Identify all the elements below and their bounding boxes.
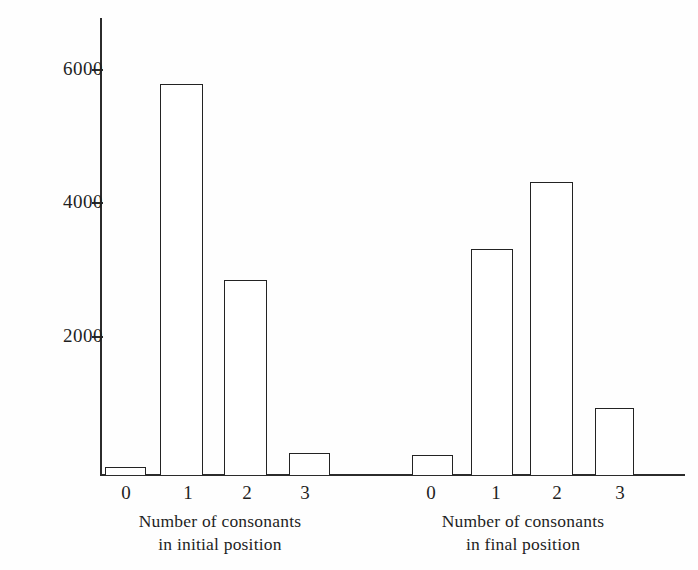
x-tick-label-initial-2: 2 [235, 483, 259, 502]
group-caption-final: Number of consonants in final position [363, 510, 683, 557]
x-tick-label-final-0: 0 [419, 483, 443, 502]
bar-final-0 [412, 455, 453, 475]
y-tick-label: 4000 [39, 192, 103, 211]
group-caption-final-line1: Number of consonants [363, 510, 683, 533]
group-caption-initial-line1: Number of consonants [60, 510, 380, 533]
bar-initial-3 [289, 453, 330, 475]
group-caption-initial-line2: in initial position [60, 533, 380, 556]
bar-initial-2 [224, 280, 267, 475]
bar-final-2 [530, 182, 573, 475]
x-tick-label-initial-3: 3 [293, 483, 317, 502]
bar-final-3 [595, 408, 634, 475]
y-tick-label: 2000 [39, 326, 103, 345]
bar-initial-0 [105, 467, 146, 475]
x-tick-label-initial-1: 1 [176, 483, 200, 502]
group-caption-final-line2: in final position [363, 533, 683, 556]
group-caption-initial: Number of consonants in initial position [60, 510, 380, 557]
bar-chart-figure: 6000 4000 2000 0 1 2 3 Number of consona… [0, 0, 698, 570]
bar-final-1 [471, 249, 513, 475]
bar-initial-1 [160, 84, 203, 475]
x-tick-label-initial-0: 0 [114, 483, 138, 502]
x-tick-label-final-3: 3 [608, 483, 632, 502]
y-tick-label: 6000 [39, 59, 103, 78]
x-tick-label-final-2: 2 [545, 483, 569, 502]
y-axis-line [100, 18, 102, 475]
x-tick-label-final-1: 1 [484, 483, 508, 502]
